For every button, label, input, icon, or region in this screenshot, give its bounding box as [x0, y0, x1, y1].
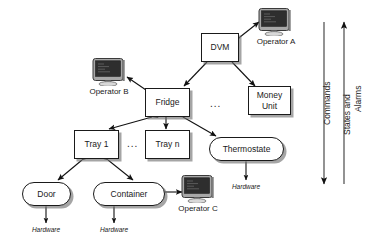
states-alarms-arrow-label-line2: Alarms — [353, 86, 363, 112]
node-tray-n-label: Tray n — [154, 140, 182, 149]
states-alarms-arrow-label-second: Alarms — [353, 86, 363, 112]
node-money-unit[interactable]: Money Unit — [248, 86, 291, 115]
node-container-label: Container — [109, 190, 150, 199]
operator-b-monitor-icon[interactable] — [92, 58, 126, 86]
operator-c-label: Operator C — [172, 204, 224, 213]
edge-dvm-money-unit — [232, 62, 255, 86]
node-tray-1-label: Tray 1 — [83, 140, 111, 149]
hardware-label-container: Hardware — [90, 226, 138, 233]
states-alarms-arrow-label-line1: States and — [342, 94, 352, 135]
node-door[interactable]: Door — [22, 182, 71, 206]
node-tray-n[interactable]: Tray n — [145, 130, 190, 159]
operator-b-label: Operator B — [83, 87, 135, 96]
operator-a-label: Operator A — [250, 37, 302, 46]
node-fridge[interactable]: Fridge — [145, 88, 190, 117]
operator-a-monitor-icon[interactable] — [258, 8, 292, 36]
node-money-unit-label-line1: Money — [255, 90, 285, 100]
node-fridge-label: Fridge — [153, 98, 181, 107]
node-thermostate-label: Thermostate — [221, 145, 273, 154]
node-door-label: Door — [35, 190, 57, 199]
node-dvm[interactable]: DVM — [201, 33, 239, 62]
monitor-icon — [181, 175, 215, 203]
operator-c-monitor-icon[interactable] — [181, 175, 215, 203]
edge-tray1-door — [58, 160, 82, 180]
commands-arrow-label: Commands — [322, 82, 332, 125]
edge-tray1-container — [108, 160, 133, 180]
hardware-label-door: Hardware — [22, 226, 70, 233]
edge-dvm-operator-a — [240, 22, 259, 37]
states-alarms-arrow-label: States and — [342, 94, 352, 135]
edge-fridge-tray1 — [109, 117, 152, 129]
monitor-icon — [92, 58, 126, 86]
node-thermostate[interactable]: Thermostate — [209, 137, 284, 161]
node-dvm-label: DVM — [209, 43, 232, 52]
ellipsis-top: ... — [210, 98, 221, 109]
monitor-icon — [258, 8, 292, 36]
ellipsis-tray: ... — [127, 138, 138, 149]
diagram-canvas: DVM Money Unit Fridge Tray 1 Tray n Ther… — [0, 0, 377, 245]
node-container[interactable]: Container — [93, 182, 165, 206]
node-money-unit-label-line2: Unit — [260, 101, 279, 111]
edge-dvm-fridge — [184, 62, 207, 86]
hardware-label-thermostate: Hardware — [222, 183, 270, 190]
node-tray-1[interactable]: Tray 1 — [74, 130, 119, 159]
